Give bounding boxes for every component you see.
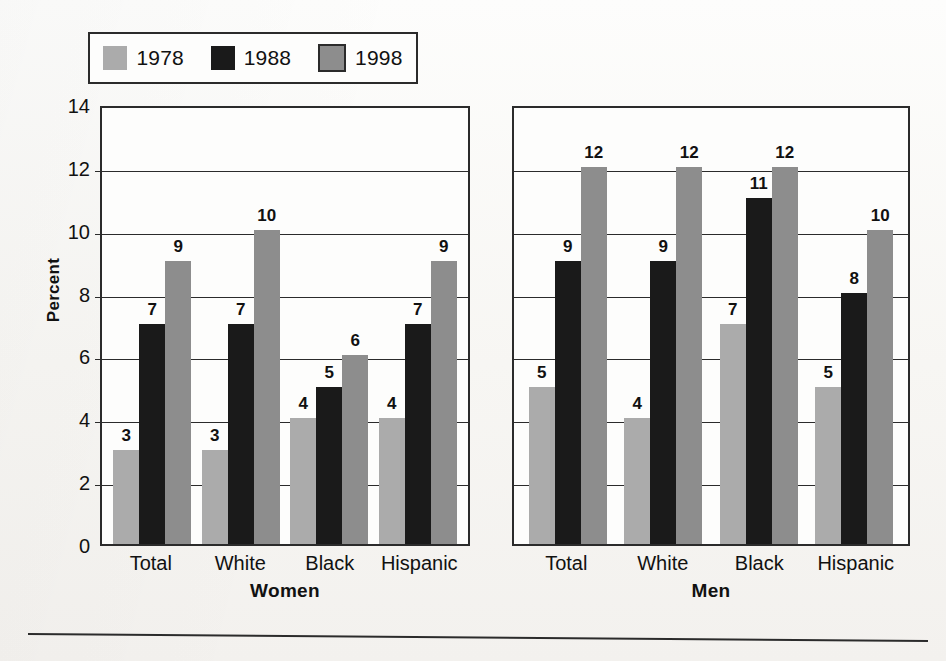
legend-entry-1978: 1978 <box>103 46 184 70</box>
bar-slot-black-1988: 5 <box>316 108 342 544</box>
panel-title-men: Men <box>512 580 910 602</box>
legend-label-1998: 1998 <box>355 46 403 70</box>
bar-slot-white-1988: 7 <box>228 108 254 544</box>
bar-value-label: 7 <box>728 300 737 320</box>
bar-women-white-1988: 7 <box>228 324 254 544</box>
bar-value-label: 3 <box>122 426 131 446</box>
bar-value-label: 7 <box>236 300 245 320</box>
legend-label-1988: 1988 <box>244 46 292 70</box>
bar-group-men-white: 4912 <box>624 108 702 544</box>
legend-label-1978: 1978 <box>136 46 184 70</box>
tick-stub-4 <box>95 422 102 423</box>
y-tick-4: 4 <box>56 409 90 432</box>
bar-slot-white-1988: 9 <box>650 108 676 544</box>
bar-men-total-1978: 5 <box>529 387 555 544</box>
bar-value-label: 12 <box>680 143 699 163</box>
bar-slot-total-1998: 12 <box>581 108 607 544</box>
bar-group-men-hispanic: 5810 <box>815 108 893 544</box>
bar-slot-hispanic-1998: 10 <box>867 108 893 544</box>
bar-slot-hispanic-1978: 4 <box>379 108 405 544</box>
bar-group-men-total: 5912 <box>529 108 607 544</box>
bar-slot-white-1998: 10 <box>254 108 280 544</box>
chart-panel-women: 3793710456479 <box>100 106 470 546</box>
bar-men-black-1988: 11 <box>746 198 772 544</box>
y-tick-10: 10 <box>56 220 90 243</box>
y-tick-8: 8 <box>56 283 90 306</box>
bar-men-white-1998: 12 <box>676 167 702 544</box>
bar-value-label: 5 <box>325 363 334 383</box>
tick-stub-2 <box>95 485 102 486</box>
tick-stub-6 <box>95 359 102 360</box>
bar-men-white-1978: 4 <box>624 418 650 544</box>
category-label-white: White <box>624 552 702 575</box>
bar-value-label: 12 <box>584 143 603 163</box>
bar-value-label: 6 <box>351 331 360 351</box>
bar-men-total-1998: 12 <box>581 167 607 544</box>
bar-slot-black-1988: 11 <box>746 108 772 544</box>
bar-women-black-1998: 6 <box>342 355 368 544</box>
bar-women-hispanic-1988: 7 <box>405 324 431 544</box>
bar-value-label: 7 <box>413 300 422 320</box>
bar-women-total-1978: 3 <box>113 450 139 544</box>
panel-title-women: Women <box>100 580 470 602</box>
bar-value-label: 7 <box>148 300 157 320</box>
category-label-total: Total <box>527 552 605 575</box>
bar-slot-black-1978: 4 <box>290 108 316 544</box>
chart-panel-men: 59124912711125810 <box>512 106 910 546</box>
bar-value-label: 3 <box>210 426 219 446</box>
bar-value-label: 8 <box>850 269 859 289</box>
bar-men-hispanic-1998: 10 <box>867 230 893 544</box>
category-label-white: White <box>201 552 279 575</box>
bar-value-label: 12 <box>775 143 794 163</box>
bar-slot-black-1998: 12 <box>772 108 798 544</box>
bar-men-hispanic-1988: 8 <box>841 293 867 544</box>
category-label-black: Black <box>720 552 798 575</box>
bar-value-label: 5 <box>537 363 546 383</box>
y-tick-12: 12 <box>56 157 90 180</box>
legend-swatch-1988 <box>211 46 235 70</box>
bar-women-total-1988: 7 <box>139 324 165 544</box>
bar-group-men-black: 71112 <box>720 108 798 544</box>
tick-stub-12 <box>95 171 102 172</box>
bar-slot-hispanic-1988: 8 <box>841 108 867 544</box>
bar-women-white-1978: 3 <box>202 450 228 544</box>
bar-men-black-1998: 12 <box>772 167 798 544</box>
category-label-total: Total <box>112 552 190 575</box>
bar-value-label: 10 <box>871 206 890 226</box>
bar-value-label: 9 <box>174 237 183 257</box>
bar-slot-total-1988: 9 <box>555 108 581 544</box>
bar-men-white-1988: 9 <box>650 261 676 544</box>
bar-group-women-total: 379 <box>113 108 191 544</box>
bar-value-label: 5 <box>824 363 833 383</box>
category-label-hispanic: Hispanic <box>817 552 895 575</box>
bar-women-black-1988: 5 <box>316 387 342 544</box>
y-axis-tick-labels: 02468101214 <box>56 106 90 546</box>
y-tick-6: 6 <box>56 346 90 369</box>
bar-men-total-1988: 9 <box>555 261 581 544</box>
bar-group-women-white: 3710 <box>202 108 280 544</box>
plot-area-women: 3793710456479 <box>102 108 468 544</box>
bar-women-black-1978: 4 <box>290 418 316 544</box>
bar-value-label: 10 <box>257 206 276 226</box>
category-labels-men: TotalWhiteBlackHispanic <box>512 552 910 578</box>
y-tick-2: 2 <box>56 472 90 495</box>
bar-value-label: 4 <box>633 394 642 414</box>
bar-value-label: 9 <box>439 237 448 257</box>
bar-slot-black-1978: 7 <box>720 108 746 544</box>
category-labels-women: TotalWhiteBlackHispanic <box>100 552 470 578</box>
bar-women-total-1998: 9 <box>165 261 191 544</box>
bar-women-white-1998: 10 <box>254 230 280 544</box>
bar-slot-hispanic-1978: 5 <box>815 108 841 544</box>
bar-value-label: 4 <box>299 394 308 414</box>
legend-entry-1988: 1988 <box>211 46 292 70</box>
bar-value-label: 11 <box>750 174 768 194</box>
bar-women-hispanic-1978: 4 <box>379 418 405 544</box>
bar-slot-black-1998: 6 <box>342 108 368 544</box>
bar-value-label: 9 <box>659 237 668 257</box>
bar-slot-total-1988: 7 <box>139 108 165 544</box>
plot-area-men: 59124912711125810 <box>514 108 908 544</box>
legend-entry-1998: 1998 <box>318 44 403 72</box>
bar-slot-white-1978: 3 <box>202 108 228 544</box>
bar-slot-white-1978: 4 <box>624 108 650 544</box>
category-label-black: Black <box>291 552 369 575</box>
